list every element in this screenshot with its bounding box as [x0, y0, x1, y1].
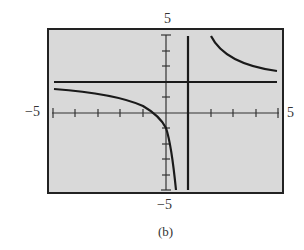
- x-max-label: 5: [287, 105, 294, 121]
- figure-caption: (b): [158, 224, 173, 240]
- x-min-label: −5: [25, 104, 40, 120]
- y-min-label: −5: [157, 197, 172, 213]
- y-max-label: 5: [164, 11, 171, 27]
- graph: [0, 0, 304, 250]
